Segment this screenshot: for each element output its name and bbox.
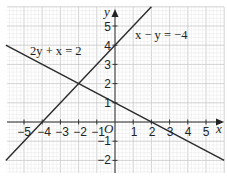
y-tick-label: 3 — [104, 58, 111, 72]
y-tick-label: 2 — [104, 77, 111, 91]
x-tick-label: −4 — [37, 125, 51, 139]
x-tick-label: 4 — [185, 125, 192, 139]
y-axis-arrow-icon — [112, 9, 119, 17]
x-axis-label: x — [215, 121, 222, 136]
line2-equation-label: x − y = −4 — [135, 28, 188, 42]
x-tick-label: −3 — [55, 125, 69, 139]
x-tick-label: 2 — [149, 125, 156, 139]
y-tick-label: −1 — [97, 134, 111, 148]
origin-label: O — [104, 121, 114, 136]
x-tick-label: −5 — [17, 125, 31, 139]
y-tick-label: 5 — [104, 20, 111, 34]
line1-equation-label: 2y + x = 2 — [30, 44, 82, 58]
y-tick-label: 1 — [104, 96, 111, 110]
coordinate-graph: −5 −4 −3 −2 −1 1 2 3 4 5 5 4 3 2 1 −1 −2… — [0, 0, 227, 178]
x-tick-label: 5 — [203, 125, 210, 139]
y-tick-label: 4 — [104, 39, 111, 53]
x-tick-label: −2 — [73, 125, 87, 139]
x-tick-label: 1 — [131, 125, 138, 139]
y-axis-label: y — [102, 4, 110, 19]
y-tick-label: −2 — [97, 153, 111, 167]
grid — [7, 7, 224, 173]
x-tick-label: 3 — [167, 125, 174, 139]
